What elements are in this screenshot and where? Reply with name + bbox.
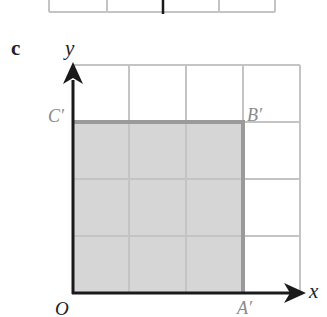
previous-figure-fragment [0,0,327,317]
point-label-a-prime: A′ [237,299,252,317]
shaded-square [72,122,243,293]
point-label-c-prime: C′ [48,107,64,125]
part-label: c [11,38,20,59]
x-axis-label: x [309,281,318,302]
y-axis-label: y [65,38,74,59]
point-label-b-prime: B′ [247,106,262,124]
origin-label: O [55,299,69,317]
